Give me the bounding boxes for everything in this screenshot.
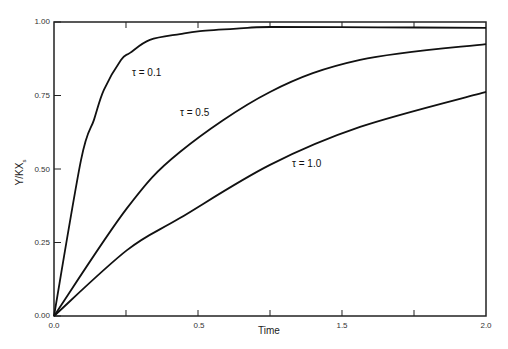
y-tick-label: 0.00 [20,311,50,320]
curve-label-tau-0.1: τ = 0.1 [132,67,161,78]
x-tick-label: 0.0 [39,321,69,330]
chart-plot-area [0,0,508,349]
curve-label-tau-0.5: τ = 0.5 [180,107,209,118]
curve-label-tau-1.0: τ = 1.0 [292,158,321,169]
y-tick-label: 0.25 [20,238,50,247]
axis-ticks [54,22,414,316]
y-axis-title-main: Y/KX [14,163,25,186]
x-axis-title: Time [258,325,280,336]
plot-frame [54,22,486,316]
y-axis-title-sub: s [21,160,27,163]
y-axis-title: Y/KXs [14,160,27,186]
y-tick-label: 1.00 [20,17,50,26]
curves [54,27,486,316]
curve-series-1 [54,27,486,316]
x-tick-label: 2.0 [471,321,501,330]
y-tick-label: 0.75 [20,91,50,100]
x-tick-label: 1.5 [327,321,357,330]
x-tick-label: 0.5 [184,321,214,330]
curve-series-3 [54,92,486,316]
curve-series-2 [54,44,486,316]
